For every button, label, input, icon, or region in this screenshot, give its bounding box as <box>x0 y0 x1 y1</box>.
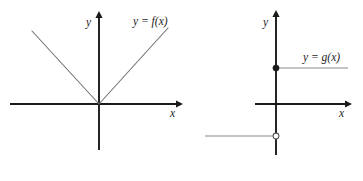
function-label-g: y = g(x) <box>303 52 340 64</box>
right-panel-group <box>205 10 352 155</box>
absolute-value-curve <box>32 28 168 104</box>
right-y-axis-label: y <box>263 17 268 29</box>
right-x-axis-label: x <box>339 108 344 120</box>
two-graph-figure: y x y = f(x) y x y = g(x) <box>0 0 363 181</box>
open-endpoint-circle <box>273 133 279 139</box>
left-x-axis-arrowhead <box>176 100 183 107</box>
left-y-axis-label: y <box>86 17 91 29</box>
right-y-axis-arrowhead <box>272 10 279 17</box>
function-label-f: y = f(x) <box>133 16 168 28</box>
left-x-axis-label: x <box>170 108 175 120</box>
left-panel-group <box>10 11 183 150</box>
left-y-axis-arrowhead <box>95 11 102 18</box>
closed-endpoint-dot <box>273 65 279 71</box>
right-x-axis-arrowhead <box>345 100 352 107</box>
figure-canvas <box>0 0 363 181</box>
